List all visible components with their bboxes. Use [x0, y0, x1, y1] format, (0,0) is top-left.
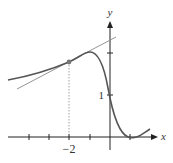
y-axis-arrow-icon	[107, 21, 113, 28]
x-axis-label: x	[160, 130, 166, 142]
y-tick-label-1: 1	[99, 89, 105, 101]
tangency-point	[67, 60, 72, 65]
function-curve	[8, 52, 150, 138]
function-graph: y x −2 1	[0, 0, 173, 163]
x-tick-label-neg2: −2	[63, 142, 76, 156]
x-axis-arrow-icon	[151, 134, 158, 140]
y-axis-label: y	[107, 6, 113, 18]
